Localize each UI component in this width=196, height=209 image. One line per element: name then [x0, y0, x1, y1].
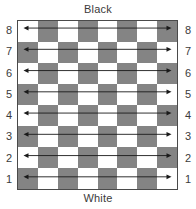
- square-e4: [98, 105, 118, 126]
- rank-label-right-2: 2: [180, 148, 196, 169]
- square-g4: [137, 105, 157, 126]
- square-g3: [137, 126, 157, 147]
- square-h6: [157, 63, 177, 84]
- square-c6: [58, 63, 78, 84]
- square-c8: [58, 21, 78, 42]
- rank-label-right-6: 6: [180, 63, 196, 84]
- square-h3: [157, 126, 177, 147]
- square-g8: [137, 21, 157, 42]
- rank-label-right-7: 7: [180, 41, 196, 62]
- square-d5: [78, 84, 98, 105]
- square-d3: [78, 126, 98, 147]
- rank-labels-left: 8 7 6 5 4 3 2 1: [1, 20, 17, 190]
- square-d4: [78, 105, 98, 126]
- square-h1: [157, 168, 177, 189]
- square-e3: [98, 126, 118, 147]
- square-h7: [157, 42, 177, 63]
- square-b2: [38, 147, 58, 168]
- chessboard-squares: [18, 21, 177, 189]
- square-c5: [58, 84, 78, 105]
- square-e7: [98, 42, 118, 63]
- square-c2: [58, 147, 78, 168]
- square-d7: [78, 42, 98, 63]
- square-d8: [78, 21, 98, 42]
- chessboard: [17, 20, 178, 190]
- square-g1: [137, 168, 157, 189]
- square-e2: [98, 147, 118, 168]
- square-c3: [58, 126, 78, 147]
- rank-label-left-4: 4: [1, 105, 17, 126]
- square-h5: [157, 84, 177, 105]
- rank-label-left-8: 8: [1, 20, 17, 41]
- square-f1: [117, 168, 137, 189]
- square-b6: [38, 63, 58, 84]
- square-b3: [38, 126, 58, 147]
- square-f7: [117, 42, 137, 63]
- square-b5: [38, 84, 58, 105]
- square-e8: [98, 21, 118, 42]
- square-g6: [137, 63, 157, 84]
- rank-label-left-3: 3: [1, 126, 17, 147]
- board-caption-white: White: [0, 192, 196, 205]
- square-e5: [98, 84, 118, 105]
- square-f6: [117, 63, 137, 84]
- rank-label-right-3: 3: [180, 126, 196, 147]
- rank-label-right-4: 4: [180, 105, 196, 126]
- square-a2: [18, 147, 38, 168]
- square-f3: [117, 126, 137, 147]
- square-f2: [117, 147, 137, 168]
- square-a6: [18, 63, 38, 84]
- square-e6: [98, 63, 118, 84]
- square-d2: [78, 147, 98, 168]
- rank-label-left-7: 7: [1, 41, 17, 62]
- square-f8: [117, 21, 137, 42]
- square-a8: [18, 21, 38, 42]
- square-a7: [18, 42, 38, 63]
- square-b7: [38, 42, 58, 63]
- square-e1: [98, 168, 118, 189]
- square-h2: [157, 147, 177, 168]
- rank-label-left-2: 2: [1, 148, 17, 169]
- square-b8: [38, 21, 58, 42]
- square-f4: [117, 105, 137, 126]
- chessboard-diagram: Black 8 7 6 5 4 3 2 1 8 7 6 5 4 3 2 1 Wh…: [0, 0, 196, 209]
- square-c7: [58, 42, 78, 63]
- square-h4: [157, 105, 177, 126]
- square-c4: [58, 105, 78, 126]
- square-d6: [78, 63, 98, 84]
- board-caption-black: Black: [0, 3, 196, 16]
- rank-label-right-1: 1: [180, 169, 196, 190]
- rank-label-right-5: 5: [180, 84, 196, 105]
- square-g2: [137, 147, 157, 168]
- square-f5: [117, 84, 137, 105]
- square-g5: [137, 84, 157, 105]
- square-a4: [18, 105, 38, 126]
- square-d1: [78, 168, 98, 189]
- square-a5: [18, 84, 38, 105]
- square-c1: [58, 168, 78, 189]
- square-a3: [18, 126, 38, 147]
- square-a1: [18, 168, 38, 189]
- rank-labels-right: 8 7 6 5 4 3 2 1: [180, 20, 196, 190]
- rank-label-left-1: 1: [1, 169, 17, 190]
- square-g7: [137, 42, 157, 63]
- rank-label-left-5: 5: [1, 84, 17, 105]
- square-h8: [157, 21, 177, 42]
- square-b4: [38, 105, 58, 126]
- rank-label-right-8: 8: [180, 20, 196, 41]
- rank-label-left-6: 6: [1, 63, 17, 84]
- square-b1: [38, 168, 58, 189]
